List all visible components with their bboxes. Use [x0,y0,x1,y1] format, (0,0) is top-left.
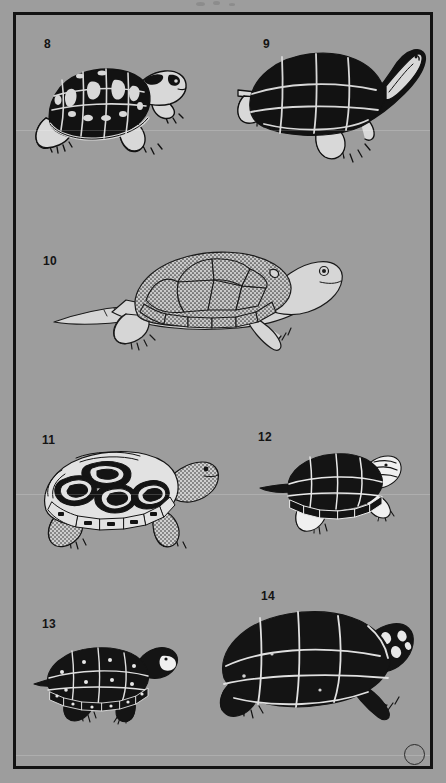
scan-smudge [196,2,205,6]
figure-label-14: 14 [261,590,275,602]
figure-14-mud-turtle [208,600,422,734]
figure-label-8: 8 [44,38,51,50]
figure-9-softshell-turtle [226,40,432,170]
figure-label-12: 12 [258,431,272,443]
figure-label-9: 9 [263,38,270,50]
figure-11-diamondback-terrapin [36,442,224,556]
figure-label-10: 10 [43,255,57,267]
figure-8-box-turtle [28,48,200,164]
scan-smudge [213,1,220,5]
figure-label-13: 13 [42,618,56,630]
scan-smudge [229,3,235,6]
corner-circle-mark [404,744,425,765]
figure-13-spotted-turtle [32,628,192,728]
figure-10-snapping-turtle [52,236,354,368]
figure-12-painted-turtle [258,444,408,542]
turtle-identification-plate: 8 9 10 11 12 13 14 [0,0,446,783]
figure-label-11: 11 [42,434,55,446]
